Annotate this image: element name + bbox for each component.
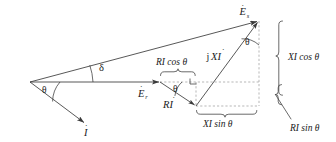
label-pf-angle-sending: θ	[245, 37, 250, 47]
vector-i-current	[30, 82, 84, 123]
label-ri-resistive-drop: RI ·	[162, 92, 175, 110]
brace-xi-cos-theta	[276, 21, 283, 95]
label-er-subscript: r	[145, 93, 148, 100]
label-pf-angle-receiving: θ	[173, 84, 178, 94]
label-brace-ri-sin-theta: RI sin θ	[289, 123, 320, 133]
label-jxi-overdot: ·	[222, 44, 225, 54]
label-brace-ri-cos-theta: RI cos θ	[155, 57, 187, 67]
label-er-overdot: ·	[140, 81, 143, 91]
label-jxi-reactive-drop: j XI ·	[206, 44, 225, 62]
brace-ri-cos-theta	[161, 69, 196, 76]
label-jxi-base: XI	[210, 51, 221, 62]
phasor-vectors-group	[30, 22, 258, 123]
label-pf-angle-origin: θ	[42, 85, 47, 95]
label-brace-xi-cos-theta: XI cos θ	[287, 52, 319, 62]
label-i-overdot: ·	[85, 120, 88, 130]
label-er-receiving-voltage: E r ·	[137, 81, 148, 100]
label-es-overdot: ·	[241, 0, 244, 10]
leader-line-ri-sin-theta	[275, 95, 291, 120]
label-brace-xi-sin-theta: XI sin θ	[202, 119, 233, 129]
label-es-sending-voltage: E s ·	[239, 0, 250, 19]
arc-power-angle-delta	[90, 65, 93, 82]
label-power-angle-delta: δ	[99, 62, 104, 73]
label-es-subscript: s	[247, 12, 250, 19]
phasor-diagram-canvas: E s · E r · I · RI · j XI · δ θ	[0, 0, 336, 142]
label-jxi-j: j	[206, 51, 210, 62]
brace-xi-sin-theta	[197, 111, 257, 118]
right-angle-marker	[190, 79, 197, 85]
arc-pf-angle-origin	[53, 82, 60, 102]
phasor-diagram-figure: E s · E r · I · RI · j XI · δ θ	[0, 0, 336, 142]
braces-group	[161, 21, 292, 119]
label-ri-overdot: ·	[172, 92, 175, 102]
